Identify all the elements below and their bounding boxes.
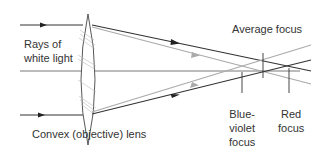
label-line: Blue- [229, 107, 255, 121]
dark-ray-bottom [92, 60, 311, 114]
blue-violet-focus-label: Blue- violet focus [229, 107, 255, 149]
label-line: focus [278, 121, 304, 135]
average-focus-label: Average focus [232, 22, 302, 36]
arrow-icon [191, 52, 200, 58]
label-line: focus [229, 135, 255, 149]
arrow-icon [40, 23, 47, 28]
convex-lens [78, 14, 96, 145]
label-line: Red [278, 107, 304, 121]
arrow-icon [171, 39, 181, 45]
lens-label: Convex (objective) lens [32, 127, 146, 141]
rays-label: Rays of white light [24, 37, 73, 65]
arrow-icon [38, 113, 45, 118]
rays-label-line: Rays of [24, 37, 73, 51]
rays-label-line: white light [24, 51, 73, 65]
label-line: violet [229, 121, 255, 135]
arrow-icon [190, 82, 199, 88]
red-focus-label: Red focus [278, 107, 304, 135]
arrow-icon [171, 94, 181, 98]
